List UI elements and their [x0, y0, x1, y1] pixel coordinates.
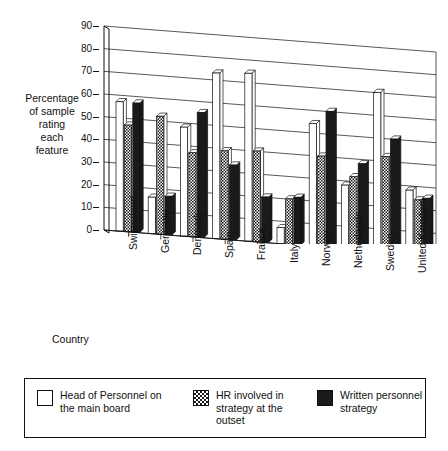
- x-tick-label-italy: Italy: [288, 244, 300, 263]
- y-tick-label: 30: [70, 156, 92, 167]
- y-tick-mark: [93, 207, 99, 208]
- y-tick-mark: [93, 117, 99, 118]
- bar-chart-svg: [96, 12, 444, 244]
- bar: [229, 162, 239, 240]
- legend-label-line: strategy at the: [216, 402, 284, 415]
- y-tick-mark: [93, 185, 99, 186]
- y-tick-mark: [93, 26, 99, 27]
- x-tick-label-denmark: Denmark: [191, 213, 203, 256]
- y-tick-label: 70: [70, 65, 92, 76]
- bar: [326, 108, 336, 244]
- legend-label-line: Written personnel: [340, 389, 422, 402]
- y-tick-mark: [93, 94, 99, 95]
- chart-legend: Head of Personnel onthe main boardHR inv…: [24, 378, 426, 438]
- black-swatch-icon: [317, 390, 333, 406]
- legend-label-line: strategy: [340, 402, 422, 415]
- legend-label: Written personnelstrategy: [340, 389, 422, 414]
- legend-item-0[interactable]: Head of Personnel onthe main board: [37, 389, 162, 414]
- bar: [390, 136, 400, 244]
- y-tick-label: 0: [70, 224, 92, 235]
- x-axis-ticks: SwitzerlandGermanyDenmarkSpainFranceItal…: [96, 246, 448, 341]
- y-tick-label: 40: [70, 133, 92, 144]
- y-tick-mark: [93, 49, 99, 50]
- legend-label: Head of Personnel onthe main board: [60, 389, 162, 414]
- legend-label-line: the main board: [60, 402, 162, 415]
- y-tick-label: 60: [70, 88, 92, 99]
- legend-item-1[interactable]: HR involved instrategy at theoutset: [193, 389, 284, 427]
- legend-label-line: HR involved in: [216, 389, 284, 402]
- hatched-swatch-icon: [193, 390, 209, 406]
- x-tick-label-netherlands: Netherlands: [352, 212, 364, 269]
- x-axis-title: Country: [52, 333, 89, 345]
- x-tick-label-sweden: Sweden: [384, 233, 396, 271]
- plot-area: [96, 12, 444, 244]
- legend-label-line: Head of Personnel on: [60, 389, 162, 402]
- legend-label: HR involved instrategy at theoutset: [216, 389, 284, 427]
- y-tick-label: 90: [70, 20, 92, 31]
- x-tick-label-germany: Germany: [159, 209, 171, 252]
- x-tick-label-switzerland: Switzerland: [127, 196, 139, 250]
- y-tick-mark: [93, 139, 99, 140]
- x-tick-label-france: France: [255, 228, 267, 261]
- legend-item-2[interactable]: Written personnelstrategy: [317, 389, 422, 414]
- y-tick-label: 80: [70, 43, 92, 54]
- y-axis-title: Percentage of sample rating each feature: [4, 92, 100, 157]
- x-tick-label-united-kingdom: United Kingdom: [416, 199, 428, 274]
- legend-label-line: outset: [216, 414, 284, 427]
- y-tick-label: 10: [70, 201, 92, 212]
- y-tick-label: 20: [70, 179, 92, 190]
- chart-page: Percentage of sample rating each feature…: [0, 0, 448, 451]
- y-tick-mark: [93, 162, 99, 163]
- y-tick-mark: [93, 71, 99, 72]
- bar: [294, 194, 304, 244]
- x-tick-label-spain: Spain: [223, 231, 235, 258]
- y-tick-label: 50: [70, 111, 92, 122]
- y-tick-mark: [93, 230, 99, 231]
- x-tick-label-norway: Norway: [320, 230, 332, 266]
- white-swatch-icon: [37, 390, 53, 406]
